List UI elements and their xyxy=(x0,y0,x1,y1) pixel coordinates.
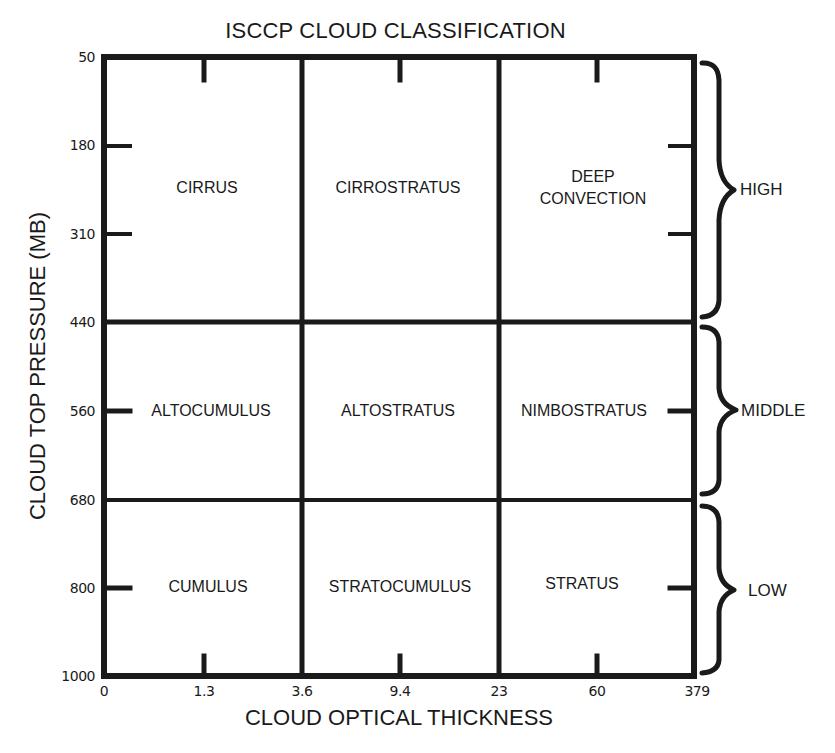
y-tick-label: 560 xyxy=(70,403,95,419)
x-tick-label: 60 xyxy=(589,683,606,699)
cell-stratus: STRATUS xyxy=(545,573,618,595)
y-tick-label: 800 xyxy=(70,580,95,596)
cell-deep-convection-line2: CONVECTION xyxy=(540,188,647,210)
x-tick-label: 23 xyxy=(491,683,508,699)
x-tick-label: 1.3 xyxy=(194,683,215,699)
y-tick-label: 440 xyxy=(70,314,95,330)
cell-cirrostratus: CIRROSTRATUS xyxy=(335,177,460,199)
cell-cirrus: CIRRUS xyxy=(176,177,237,199)
y-tick-label: 680 xyxy=(70,492,95,508)
band-label-low: LOW xyxy=(748,581,787,601)
cell-deep-convection: DEEP CONVECTION xyxy=(540,166,647,210)
band-label-high: HIGH xyxy=(740,180,783,200)
cell-cumulus: CUMULUS xyxy=(168,576,247,598)
y-tick-label: 310 xyxy=(70,226,95,242)
classification-grid xyxy=(0,0,835,753)
brace-middle-icon xyxy=(702,327,736,494)
y-axis-title: CLOUD TOP PRESSURE (MB) xyxy=(25,212,51,520)
cell-deep-convection-line1: DEEP xyxy=(540,166,647,188)
cell-stratocumulus: STRATOCUMULUS xyxy=(329,576,472,598)
cell-altocumulus: ALTOCUMULUS xyxy=(151,400,270,422)
y-tick-label: 180 xyxy=(70,137,95,153)
x-tick-label: 9.4 xyxy=(390,683,411,699)
band-label-middle: MIDDLE xyxy=(741,401,805,421)
x-tick-label: 0 xyxy=(100,683,108,699)
cell-nimbostratus: NIMBOSTRATUS xyxy=(521,400,647,422)
cell-altostratus: ALTOSTRATUS xyxy=(341,400,455,422)
x-tick-label: 3.6 xyxy=(292,683,313,699)
x-axis-title: CLOUD OPTICAL THICKNESS xyxy=(104,705,694,731)
x-tick-label: 379 xyxy=(684,683,709,699)
brace-low-icon xyxy=(702,506,734,673)
brace-high-icon xyxy=(702,63,734,317)
y-tick-label: 1000 xyxy=(61,668,95,684)
y-tick-label: 50 xyxy=(78,49,95,65)
